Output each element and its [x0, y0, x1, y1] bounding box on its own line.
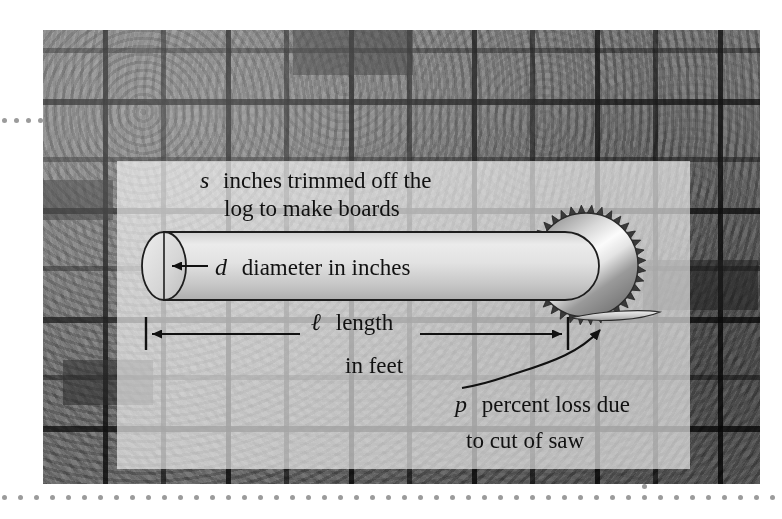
diameter-label: d diameter in inches — [215, 254, 410, 280]
loss-label-line1: p percent loss due — [453, 391, 630, 417]
length-label-line2: in feet — [345, 353, 404, 378]
length-text-line1: length — [336, 310, 394, 335]
diameter-text: diameter in inches — [242, 255, 411, 280]
trim-variable-s: s — [200, 167, 209, 193]
diameter-variable-d: d — [215, 254, 228, 280]
length-variable-ell: ℓ — [311, 309, 321, 335]
log-diagram-svg: s inches trimmed off the log to make boa… — [0, 0, 782, 519]
figure-page: s inches trimmed off the log to make boa… — [0, 0, 782, 519]
trim-label-line2: log to make boards — [224, 196, 400, 221]
loss-variable-p: p — [453, 391, 467, 417]
trim-text-line1: inches trimmed off the — [223, 168, 431, 193]
loss-label-line2: to cut of saw — [466, 428, 585, 453]
loss-curved-arrow — [462, 330, 600, 388]
loss-text-line1: percent loss due — [482, 392, 630, 417]
length-label-line1: ℓ length — [311, 309, 394, 335]
trim-label-line1: s inches trimmed off the — [200, 167, 432, 193]
